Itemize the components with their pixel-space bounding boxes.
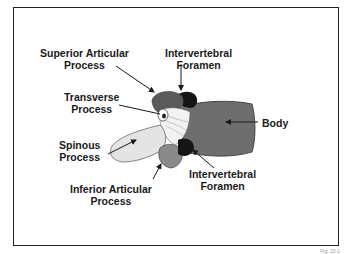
figure-caption: Fig. 15-1 [320,248,340,254]
label-intervertebral-foramen-bottom: Intervertebral Foramen [189,168,256,192]
label-intervertebral-foramen-top: Intervertebral Foramen [165,47,232,71]
label-transverse-process: Transverse Process [64,91,119,115]
label-body: Body [262,117,288,129]
spinous-process [110,125,165,162]
vertebra-illustration [0,0,344,254]
label-superior-articular-process: Superior Articular Process [40,47,129,71]
arrow-inferior-articular [153,164,161,179]
label-inferior-articular-process: Inferior Articular Process [70,183,152,207]
label-spinous-process: Spinous Process [59,139,100,163]
